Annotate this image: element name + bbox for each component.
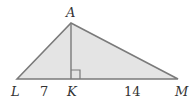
- length-km: 14: [124, 84, 141, 99]
- triangle-diagram: A L 7 K 14 M: [0, 0, 196, 104]
- label-m: M: [174, 84, 189, 99]
- label-k: K: [66, 84, 78, 99]
- length-lk: 7: [40, 84, 48, 99]
- label-l: L: [10, 84, 20, 99]
- triangle-lam: [17, 23, 178, 79]
- label-a: A: [65, 5, 75, 20]
